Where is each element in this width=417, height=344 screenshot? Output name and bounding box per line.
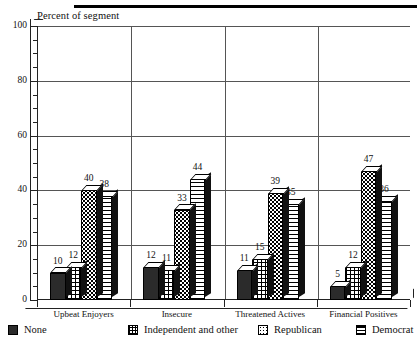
y-minor-tick-25 [33, 232, 37, 233]
bar-0-0: 10 [50, 273, 66, 300]
legend-label-0: None [24, 324, 47, 335]
y-tick-label-80: 80 [1, 75, 27, 85]
chart-legend: NoneIndependent and otherRepublicanDemoc… [0, 324, 417, 344]
solid-dark-swatch [8, 325, 18, 335]
bar-front-face [237, 270, 253, 300]
bar-side-face [205, 173, 211, 297]
x-tick-2 [224, 300, 225, 307]
x-category-label-3: Financial Positives [317, 309, 410, 319]
y-minor-tick-50 [33, 163, 37, 164]
bar-value-label: 11 [240, 253, 249, 263]
y-minor-tick-90 [33, 53, 37, 54]
bar-2-0: 11 [237, 270, 253, 300]
y-tick-label-20: 20 [1, 239, 27, 249]
y-axis-3d-edge [30, 19, 31, 301]
y-tick-label-60: 60 [1, 130, 27, 140]
x-tick-1 [130, 300, 131, 307]
bar-value-label: 10 [53, 256, 63, 266]
bar-side-face [283, 186, 289, 297]
bar-value-label: 12 [146, 250, 156, 260]
x-axis-3d-base [25, 300, 415, 309]
legend-item-2[interactable]: Republican [258, 324, 322, 335]
bar-value-label: 33 [177, 193, 187, 203]
bar-value-label: 12 [69, 250, 79, 260]
legend-item-1[interactable]: Independent and other [128, 324, 238, 335]
y-minor-tick-85 [33, 67, 37, 68]
legend-label-2: Republican [274, 324, 322, 335]
x-tick-3 [317, 300, 318, 307]
cross-hatch-swatch [128, 325, 138, 335]
bar-value-label: 12 [348, 250, 358, 260]
y-tick-label-100: 100 [1, 20, 27, 30]
bar-front-face [50, 273, 66, 300]
bar-side-face [97, 184, 103, 297]
bar-value-label: 44 [193, 162, 203, 172]
x-category-label-0: Upbeat Enjoyers [37, 309, 130, 319]
bar-side-face [190, 203, 196, 297]
bar-value-label: 15 [255, 242, 265, 252]
gridline-x-1 [131, 26, 132, 299]
x-tick-0 [37, 300, 38, 307]
y-tick-100 [31, 26, 37, 27]
y-minor-tick-65 [33, 122, 37, 123]
y-minor-tick-15 [33, 259, 37, 260]
bar-front-face [143, 267, 159, 300]
bar-3-0: 5 [330, 286, 346, 300]
top-rule-divider [74, 5, 417, 8]
legend-label-3: Democrat [372, 324, 413, 335]
bar-value-label: 47 [364, 154, 374, 164]
horizontal-lines-swatch [356, 325, 366, 335]
bar-value-label: 39 [271, 176, 281, 186]
y-tick-label-0: 0 [1, 294, 27, 304]
gridline-x-2 [225, 26, 226, 299]
gridline-x-3 [318, 26, 319, 299]
bar-side-face [299, 197, 305, 297]
y-minor-tick-75 [33, 95, 37, 96]
y-tick-60 [31, 136, 37, 137]
y-tick-40 [31, 190, 37, 191]
y-minor-tick-95 [33, 40, 37, 41]
y-minor-tick-10 [33, 273, 37, 274]
y-tick-80 [31, 81, 37, 82]
y-minor-tick-45 [33, 177, 37, 178]
bar-side-face [376, 164, 382, 297]
legend-item-0[interactable]: None [8, 324, 47, 335]
y-minor-tick-5 [33, 286, 37, 287]
bar-front-face [330, 286, 346, 300]
bar-side-face [392, 195, 398, 297]
bar-side-face [112, 189, 118, 297]
y-tick-label-40: 40 [1, 184, 27, 194]
x-tick-4 [410, 300, 411, 307]
y-tick-20 [31, 245, 37, 246]
y-minor-tick-30 [33, 218, 37, 219]
y-minor-tick-55 [33, 149, 37, 150]
chart-page: Percent of segment 020406080100Upbeat En… [0, 0, 417, 344]
legend-label-1: Independent and other [144, 324, 238, 335]
x-category-label-2: Threatened Actives [224, 309, 317, 319]
y-minor-tick-70 [33, 108, 37, 109]
bar-value-label: 40 [84, 173, 94, 183]
y-minor-tick-35 [33, 204, 37, 205]
y-axis-title: Percent of segment [37, 10, 119, 21]
bar-value-label: 5 [335, 269, 340, 279]
legend-item-3[interactable]: Democrat [356, 324, 413, 335]
bar-1-0: 12 [143, 267, 159, 300]
dotted-swatch [258, 325, 268, 335]
x-category-label-1: Insecure [130, 309, 223, 319]
